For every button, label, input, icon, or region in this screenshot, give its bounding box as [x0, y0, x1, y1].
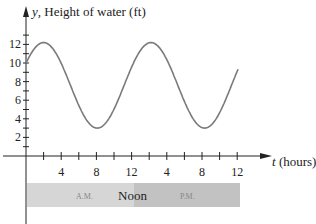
- x-tick-label: 12: [126, 165, 138, 179]
- x-tick-label: 8: [93, 165, 99, 179]
- y-tick-label: 10: [9, 56, 21, 70]
- y-axis-label: y, Height of water (ft): [30, 4, 146, 19]
- x-tick-label: 8: [199, 165, 205, 179]
- x-axis-label: t (hours): [272, 154, 316, 169]
- am-label: A.M.: [76, 192, 93, 201]
- water-height-curve: [26, 43, 238, 129]
- y-tick-label: 12: [9, 37, 21, 51]
- y-tick-label: 4: [15, 112, 21, 126]
- x-tick-label: 4: [58, 165, 64, 179]
- pm-label: P.M.: [180, 192, 195, 201]
- noon-label: Noon: [118, 188, 147, 203]
- y-tick-label: 8: [15, 75, 21, 89]
- y-axis-arrow-icon: [23, 6, 29, 17]
- x-axis-arrow-icon: [260, 153, 272, 159]
- x-tick-label: 12: [231, 165, 243, 179]
- y-tick-label: 6: [15, 93, 21, 107]
- y-tick-label: 2: [15, 130, 21, 144]
- tide-chart: 24681012 48124812 y, Height of water (ft…: [0, 0, 316, 224]
- x-tick-label: 4: [164, 165, 170, 179]
